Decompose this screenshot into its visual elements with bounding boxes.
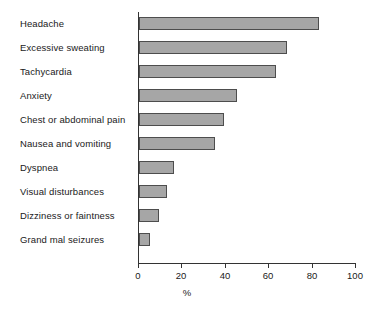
- category-label-excessive-sweating: Excessive sweating: [20, 41, 105, 55]
- category-label-tachycardia: Tachycardia: [20, 65, 72, 79]
- category-label-dizziness-or-faintness: Dizziness or faintness: [20, 209, 115, 223]
- category-label-chest-or-abdominal-pain: Chest or abdominal pain: [20, 113, 125, 127]
- x-tick-label-60: 60: [263, 270, 274, 281]
- bar-tachycardia: [139, 65, 276, 78]
- x-tick-label-80: 80: [307, 270, 318, 281]
- x-tick-100: [355, 263, 356, 268]
- category-label-dyspnea: Dyspnea: [20, 161, 58, 175]
- bar-anxiety: [139, 89, 237, 102]
- x-tick-80: [312, 263, 313, 268]
- category-label-headache: Headache: [20, 17, 64, 31]
- x-tick-label-0: 0: [135, 270, 140, 281]
- plot-area: 0 20 40 60 80 100: [138, 12, 355, 263]
- bar-dizziness-or-faintness: [139, 209, 159, 222]
- x-axis-line: [138, 263, 356, 264]
- bar-excessive-sweating: [139, 41, 287, 54]
- bar-nausea-and-vomiting: [139, 137, 215, 150]
- bar-chest-or-abdominal-pain: [139, 113, 224, 126]
- bar-visual-disturbances: [139, 185, 167, 198]
- bar-headache: [139, 17, 319, 30]
- category-label-grand-mal-seizures: Grand mal seizures: [20, 233, 104, 247]
- x-tick-label-100: 100: [347, 270, 363, 281]
- x-tick-label-40: 40: [220, 270, 231, 281]
- x-tick-0: [138, 263, 139, 268]
- x-tick-60: [268, 263, 269, 268]
- x-tick-20: [181, 263, 182, 268]
- x-tick-40: [225, 263, 226, 268]
- category-label-visual-disturbances: Visual disturbances: [20, 185, 104, 199]
- bar-chart: Headache Excessive sweating Tachycardia …: [0, 0, 374, 310]
- category-label-nausea-and-vomiting: Nausea and vomiting: [20, 137, 111, 151]
- x-axis-title: %: [0, 287, 374, 298]
- category-label-anxiety: Anxiety: [20, 89, 52, 103]
- bar-grand-mal-seizures: [139, 233, 150, 246]
- x-tick-label-20: 20: [176, 270, 187, 281]
- bar-dyspnea: [139, 161, 174, 174]
